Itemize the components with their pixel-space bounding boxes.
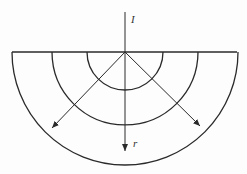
diagram-shapes xyxy=(12,12,238,165)
hemispherical-electrode-diagram: I r xyxy=(0,0,247,174)
diagram-svg: I r xyxy=(0,0,247,174)
radius-label: r xyxy=(133,137,138,149)
current-label: I xyxy=(130,13,136,25)
